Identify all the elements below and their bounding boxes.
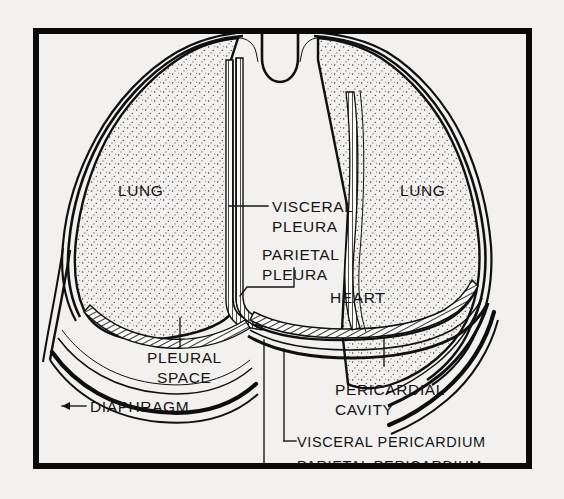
label-parietal-pleura-line2: PLEURA <box>262 266 328 283</box>
label-pericardial-cavity-line1: PERICARDIAL <box>335 381 445 398</box>
label-visceral-pleura-line2: PLEURA <box>272 218 338 235</box>
label-visceral-pleura-line1: VISCERAL <box>272 198 353 215</box>
label-diaphragm: DIAPHRAGM <box>90 398 189 415</box>
label-pericardial-cavity-line2: CAVITY <box>335 401 393 418</box>
label-parietal-pleura-line1: PARIETAL <box>262 246 339 263</box>
label-lung-right: LUNG <box>400 182 445 199</box>
label-heart: HEART <box>330 289 385 306</box>
label-pleural-space-line1: PLEURAL <box>147 349 222 366</box>
label-pleural-space-line2: SPACE <box>157 369 211 386</box>
label-visceral-pericardium: VISCERAL PERICARDIUM <box>297 434 486 450</box>
label-lung-left: LUNG <box>118 182 163 199</box>
diagram-canvas: LUNG LUNG VISCERAL PLEURA PARIETAL PLEUR… <box>0 0 564 499</box>
anatomical-figure: LUNG LUNG VISCERAL PLEURA PARIETAL PLEUR… <box>0 0 564 499</box>
